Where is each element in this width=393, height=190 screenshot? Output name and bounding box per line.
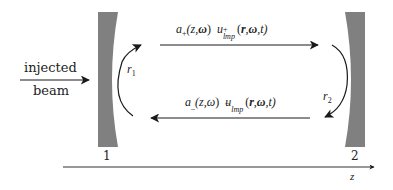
r1-label: r1 (127, 62, 136, 77)
reflection-r2-arrow (325, 45, 347, 117)
mirror-2-label: 2 (351, 149, 359, 163)
r2-label: r2 (323, 89, 332, 104)
forward-wave-formula: a+(z,ω) u+lmp(r,ω,t) (176, 22, 268, 37)
z-axis-label: z (350, 170, 354, 182)
mirror-1-shape (98, 12, 118, 147)
reflection-r1-arrow (118, 45, 141, 116)
backward-wave-formula: a_(z,ω) u–lmp(r,ω,t) (185, 95, 276, 110)
injected-label: injected (24, 60, 77, 75)
beam-label: beam (33, 83, 69, 98)
mirror-1-label: 1 (103, 149, 111, 163)
mirror-2-shape (345, 12, 365, 147)
